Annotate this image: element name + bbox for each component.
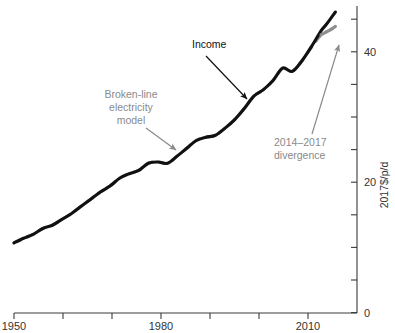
annotation-model: Broken-line electricity model: [104, 88, 176, 150]
series-line-income: [14, 12, 335, 243]
line-chart-canvas: 40 20 0 1950 1980 2010 2017$/p/d Income …: [0, 0, 395, 333]
x-tick-label-1980: 1980: [149, 320, 173, 332]
annotation-model-label-line2: electricity: [109, 101, 154, 113]
x-axis-ticks: [14, 313, 308, 319]
annotation-income-arrow: [206, 56, 247, 99]
annotation-model-arrow: [146, 128, 176, 150]
x-tick-label-2010: 2010: [296, 320, 320, 332]
annotation-divergence-arrow: [312, 45, 339, 134]
annotation-divergence-label-line2: divergence: [274, 149, 326, 161]
axes-group: 40 20 0 1950 1980 2010 2017$/p/d: [2, 6, 390, 332]
annotation-model-label-line1: Broken-line: [104, 88, 157, 100]
annotation-income: Income: [192, 38, 247, 99]
y-tick-label-40: 40: [364, 46, 376, 58]
series-line-broken-line-electricity-model: [14, 26, 335, 242]
y-tick-label-0: 0: [364, 307, 370, 319]
annotation-income-label: Income: [192, 38, 227, 50]
y-axis-title: 2017$/p/d: [378, 161, 390, 208]
annotation-divergence-label-line1: 2014–2017: [274, 136, 327, 148]
annotation-model-label-line3: model: [117, 114, 146, 126]
y-axis-ticks: [351, 19, 357, 312]
y-tick-label-20: 20: [364, 176, 376, 188]
chart-figure: 40 20 0 1950 1980 2010 2017$/p/d Income …: [0, 0, 395, 333]
x-tick-label-1950: 1950: [2, 320, 26, 332]
series-group: [14, 12, 335, 243]
annotation-divergence: 2014–2017 divergence: [274, 45, 339, 161]
